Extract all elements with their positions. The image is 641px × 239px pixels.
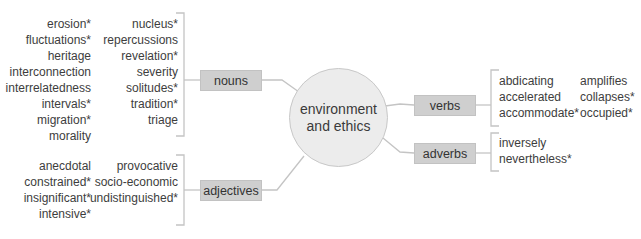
verbs-category-box: verbs (414, 95, 476, 116)
adjectives-label: adjectives (203, 184, 259, 198)
word-item: intervals* (42, 96, 91, 112)
word-item: anecdotal (39, 158, 91, 174)
word-item: provocative (117, 158, 178, 174)
word-item: undistinguished* (90, 190, 178, 206)
word-item: heritage (48, 48, 91, 64)
word-item: inversely (499, 135, 546, 151)
adjectives-category-box: adjectives (200, 180, 262, 201)
verbs-label: verbs (430, 99, 461, 113)
word-item: socio-economic (95, 174, 178, 190)
nouns-label: nouns (214, 74, 248, 88)
word-item: constrained* (24, 174, 91, 190)
word-item: accelerated (499, 89, 561, 105)
word-item: tradition* (131, 96, 178, 112)
word-item: revelation* (121, 48, 178, 64)
word-item: triage (148, 112, 178, 128)
central-topic-line1: environment (300, 101, 377, 118)
word-item: nucleus* (132, 16, 178, 32)
word-item: occupied* (580, 105, 633, 121)
word-item: nevertheless* (499, 151, 572, 167)
word-item: migration* (37, 112, 91, 128)
word-item: collapses* (580, 89, 635, 105)
central-topic-line2: and ethics (300, 118, 377, 135)
nouns-category-box: nouns (200, 70, 262, 91)
adverbs-category-box: adverbs (414, 143, 476, 164)
word-item: repercussions (103, 32, 178, 48)
central-topic-node: environment and ethics (289, 68, 388, 167)
word-item: severity (137, 64, 178, 80)
word-item: morality (49, 128, 91, 144)
adverbs-bracket (491, 133, 499, 171)
mind-map: environment and ethics nouns adjectives … (0, 0, 641, 239)
word-item: solitudes* (126, 80, 178, 96)
word-item: fluctuations* (26, 32, 91, 48)
adverbs-label: adverbs (423, 147, 467, 161)
word-item: erosion* (47, 16, 91, 32)
verbs-bracket (491, 70, 499, 126)
word-item: intensive* (39, 206, 91, 222)
word-item: insignificant* (24, 190, 91, 206)
word-item: accommodate* (499, 105, 579, 121)
word-item: amplifies (580, 73, 627, 89)
word-item: abdicating (499, 73, 554, 89)
word-item: interconnection (10, 64, 91, 80)
word-item: interrelatedness (6, 80, 91, 96)
